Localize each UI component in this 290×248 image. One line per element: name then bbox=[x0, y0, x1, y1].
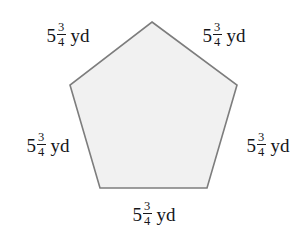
fraction-denominator: 4 bbox=[257, 145, 265, 158]
fraction-denominator: 4 bbox=[57, 35, 65, 48]
fraction: 3 4 bbox=[143, 200, 152, 227]
fraction-numerator: 3 bbox=[143, 200, 151, 213]
fraction: 3 4 bbox=[57, 21, 66, 48]
fraction-numerator: 3 bbox=[257, 131, 265, 144]
side-label-left: 5 3 4 yd bbox=[2, 130, 94, 160]
unit-label: yd bbox=[271, 136, 290, 155]
side-label-right: 5 3 4 yd bbox=[222, 130, 290, 160]
measurement-value: 5 3 4 yd bbox=[47, 22, 90, 49]
unit-label: yd bbox=[51, 136, 70, 155]
unit-label: yd bbox=[227, 26, 246, 45]
fraction-numerator: 3 bbox=[37, 131, 45, 144]
side-label-top-left: 5 3 4 yd bbox=[22, 20, 114, 50]
whole-number: 5 bbox=[27, 136, 37, 155]
whole-number: 5 bbox=[247, 136, 257, 155]
measurement-value: 5 3 4 yd bbox=[27, 132, 70, 159]
unit-label: yd bbox=[71, 26, 90, 45]
whole-number: 5 bbox=[203, 26, 213, 45]
fraction-numerator: 3 bbox=[213, 21, 221, 34]
fraction-numerator: 3 bbox=[57, 21, 65, 34]
whole-number: 5 bbox=[133, 205, 143, 224]
side-label-top-right: 5 3 4 yd bbox=[178, 20, 270, 50]
fraction: 3 4 bbox=[213, 21, 222, 48]
measurement-value: 5 3 4 yd bbox=[247, 132, 290, 159]
unit-label: yd bbox=[157, 205, 176, 224]
side-label-bottom: 5 3 4 yd bbox=[108, 199, 200, 229]
fraction-denominator: 4 bbox=[143, 214, 151, 227]
measurement-value: 5 3 4 yd bbox=[203, 22, 246, 49]
measurement-value: 5 3 4 yd bbox=[133, 201, 176, 228]
fraction: 3 4 bbox=[257, 131, 266, 158]
whole-number: 5 bbox=[47, 26, 57, 45]
fraction-denominator: 4 bbox=[37, 145, 45, 158]
fraction-denominator: 4 bbox=[213, 35, 221, 48]
fraction: 3 4 bbox=[37, 131, 46, 158]
pentagon-figure: 5 3 4 yd 5 3 4 yd 5 3 4 bbox=[0, 0, 290, 248]
